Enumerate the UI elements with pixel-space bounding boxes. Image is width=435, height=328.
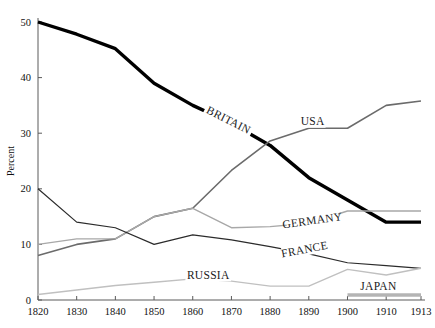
x-tick-label: 1820: [28, 306, 49, 317]
series-line-germany: [38, 208, 421, 244]
series-label-group-usa: USA: [300, 115, 326, 128]
series-label-group-britain: BRITAIN: [202, 103, 254, 138]
data-lines-group: [38, 22, 421, 295]
chart-container: BRITAINUSAGERMANYFRANCERUSSIAJAPAN 01020…: [0, 0, 435, 328]
x-tick-label: 1910: [376, 306, 397, 317]
series-label-usa: USA: [301, 115, 325, 127]
y-tick-label: 20: [21, 183, 32, 194]
series-label-britain: BRITAIN: [205, 104, 253, 137]
y-tick-label: 10: [21, 239, 32, 250]
y-tick-label: 40: [21, 72, 32, 83]
series-label-group-russia: RUSSIA: [185, 269, 231, 282]
y-tick-label: 0: [26, 295, 31, 306]
x-tick-label: 1860: [182, 306, 203, 317]
series-label-group-japan: JAPAN: [359, 280, 398, 293]
x-tick-label: 1890: [298, 306, 319, 317]
series-label-russia: RUSSIA: [187, 269, 230, 281]
x-tick-label: 1840: [105, 306, 126, 317]
axis-title-group: Percent: [5, 146, 16, 176]
series-line-france: [38, 189, 421, 269]
x-tick-label: 1913: [411, 306, 432, 317]
y-tick-label: 50: [21, 17, 32, 28]
x-tick-label: 1900: [337, 306, 358, 317]
x-tick-label: 1880: [260, 306, 281, 317]
y-axis-title: Percent: [5, 146, 16, 176]
series-label-group-germany: GERMANY: [282, 210, 344, 231]
x-tick-label: 1870: [221, 306, 242, 317]
line-chart-svg: BRITAINUSAGERMANYFRANCERUSSIAJAPAN 01020…: [0, 0, 435, 328]
series-label-germany: GERMANY: [282, 210, 344, 230]
series-label-japan: JAPAN: [360, 280, 397, 292]
x-tick-label: 1850: [144, 306, 165, 317]
x-tick-label: 1830: [66, 306, 87, 317]
y-tick-label: 30: [21, 128, 32, 139]
axes-group: [38, 18, 425, 300]
